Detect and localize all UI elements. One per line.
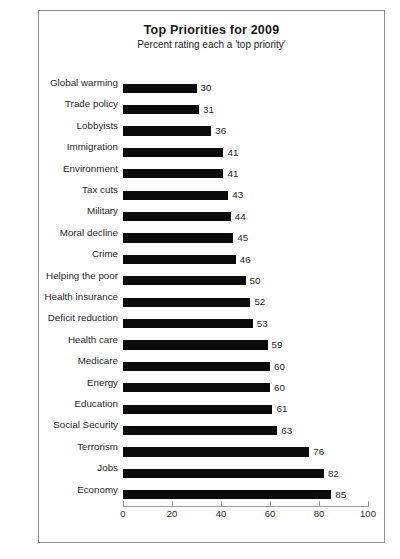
x-axis-line bbox=[123, 506, 369, 507]
category-label: Social Security bbox=[8, 420, 118, 430]
bar-value-label: 41 bbox=[227, 168, 238, 179]
bar-row: Tax cuts43 bbox=[0, 185, 400, 206]
bar bbox=[123, 255, 236, 264]
bar-row: Education61 bbox=[0, 399, 400, 420]
bar bbox=[123, 469, 324, 478]
bar-value-label: 59 bbox=[272, 339, 283, 350]
bar bbox=[123, 148, 223, 157]
category-label: Health insurance bbox=[8, 292, 118, 302]
bar bbox=[123, 169, 223, 178]
category-label: Energy bbox=[8, 378, 118, 388]
bar bbox=[123, 426, 277, 435]
bar bbox=[123, 319, 253, 328]
bar-value-label: 76 bbox=[313, 446, 324, 457]
category-label: Helping the poor bbox=[8, 271, 118, 281]
bar bbox=[123, 362, 270, 371]
bar-row: Terrorism76 bbox=[0, 442, 400, 463]
category-label: Environment bbox=[8, 164, 118, 174]
bar-row: Crime46 bbox=[0, 249, 400, 270]
bar-row: Military44 bbox=[0, 206, 400, 227]
bar-value-label: 60 bbox=[274, 382, 285, 393]
bar-value-label: 36 bbox=[215, 125, 226, 136]
bar-value-label: 63 bbox=[281, 425, 292, 436]
bar-value-label: 61 bbox=[276, 403, 287, 414]
bar-row: Lobbyists36 bbox=[0, 121, 400, 142]
bar bbox=[123, 490, 331, 499]
bar-value-label: 45 bbox=[237, 232, 248, 243]
bar-row: Medicare60 bbox=[0, 356, 400, 377]
category-label: Moral decline bbox=[8, 228, 118, 238]
x-tick-label-40: 40 bbox=[201, 508, 241, 519]
x-tick-label-100: 100 bbox=[348, 508, 388, 519]
bar bbox=[123, 105, 199, 114]
category-label: Jobs bbox=[8, 463, 118, 473]
category-label: Crime bbox=[8, 249, 118, 259]
bar-row: Health insurance52 bbox=[0, 292, 400, 313]
category-label: Economy bbox=[8, 485, 118, 495]
x-tick-label-60: 60 bbox=[250, 508, 290, 519]
bar bbox=[123, 191, 228, 200]
bar bbox=[123, 447, 309, 456]
bar-value-label: 41 bbox=[227, 147, 238, 158]
bar-value-label: 30 bbox=[201, 82, 212, 93]
category-label: Tax cuts bbox=[8, 185, 118, 195]
bar-row: Immigration41 bbox=[0, 142, 400, 163]
bar bbox=[123, 298, 250, 307]
category-label: Medicare bbox=[8, 356, 118, 366]
category-label: Education bbox=[8, 399, 118, 409]
x-tick-label-0: 0 bbox=[103, 508, 143, 519]
bar bbox=[123, 405, 272, 414]
bar-row: Jobs82 bbox=[0, 463, 400, 484]
bar-row: Environment41 bbox=[0, 164, 400, 185]
bar bbox=[123, 84, 197, 93]
x-tick-label-20: 20 bbox=[152, 508, 192, 519]
bar-value-label: 43 bbox=[232, 189, 243, 200]
bar-value-label: 50 bbox=[250, 275, 261, 286]
category-label: Lobbyists bbox=[8, 121, 118, 131]
category-label: Health care bbox=[8, 335, 118, 345]
bar-row: Moral decline45 bbox=[0, 228, 400, 249]
bar-value-label: 53 bbox=[257, 318, 268, 329]
category-label: Military bbox=[8, 206, 118, 216]
bar-value-label: 85 bbox=[335, 489, 346, 500]
category-label: Trade policy bbox=[8, 99, 118, 109]
bar bbox=[123, 340, 268, 349]
bar bbox=[123, 383, 270, 392]
bar-row: Helping the poor50 bbox=[0, 271, 400, 292]
x-tick-label-80: 80 bbox=[299, 508, 339, 519]
bar-value-label: 46 bbox=[240, 254, 251, 265]
bar-row: Trade policy31 bbox=[0, 99, 400, 120]
bar-row: Health care59 bbox=[0, 335, 400, 356]
bar bbox=[123, 233, 233, 242]
chart-title: Top Priorities for 2009 bbox=[38, 23, 385, 37]
bar-value-label: 60 bbox=[274, 361, 285, 372]
bar bbox=[123, 212, 231, 221]
bar bbox=[123, 126, 211, 135]
category-label: Global warming bbox=[8, 78, 118, 88]
bar-value-label: 44 bbox=[235, 211, 246, 222]
bar-value-label: 82 bbox=[328, 468, 339, 479]
bar bbox=[123, 276, 246, 285]
category-label: Terrorism bbox=[8, 442, 118, 452]
category-label: Deficit reduction bbox=[8, 313, 118, 323]
bar-row: Global warming30 bbox=[0, 78, 400, 99]
bar-row: Energy60 bbox=[0, 378, 400, 399]
bar-row: Social Security63 bbox=[0, 420, 400, 441]
chart-subtitle: Percent rating each a 'top priority' bbox=[38, 39, 385, 50]
bar-row: Deficit reduction53 bbox=[0, 313, 400, 334]
category-label: Immigration bbox=[8, 142, 118, 152]
bar-value-label: 31 bbox=[203, 104, 214, 115]
bar-row: Economy85 bbox=[0, 485, 400, 506]
bar-value-label: 52 bbox=[254, 296, 265, 307]
